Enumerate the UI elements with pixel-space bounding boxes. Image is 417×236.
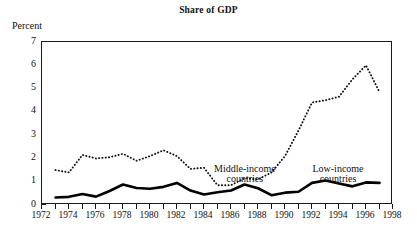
annotation-low-income-line2: countries [312,174,363,185]
y-tick-label: 1 [18,175,36,185]
figure-container: Share of GDP Percent 01234567 1972197419… [0,0,417,236]
x-tick-label: 1998 [372,211,412,221]
y-tick-label: 7 [18,36,36,46]
y-tick-label: 2 [18,152,36,162]
annotation-low-income-line1: Low-income [312,163,363,174]
annotation-middle-income-line2: countries [214,174,276,185]
y-tick-label: 0 [18,199,36,209]
y-tick-label: 5 [18,82,36,92]
chart-title: Share of GDP [0,5,417,15]
y-tick-label: 6 [18,59,36,69]
y-tick-label: 4 [18,105,36,115]
annotation-middle-income: Middle-income countries [214,164,276,185]
annotation-low-income: Low-income countries [312,164,363,185]
y-axis-label: Percent [12,20,42,31]
y-tick-label: 3 [18,129,36,139]
annotation-middle-income-line1: Middle-income [214,163,276,174]
